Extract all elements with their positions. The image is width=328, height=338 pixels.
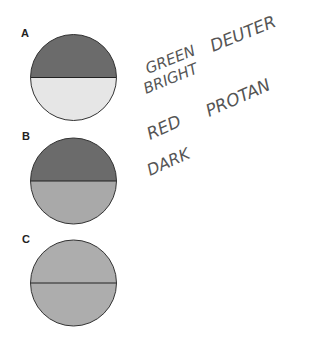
circle-b (30, 137, 118, 225)
circle-c (31, 240, 117, 326)
note-deuter: DEUTER (207, 11, 279, 55)
circle-b-bottom (30, 181, 118, 225)
note-red: RED (143, 111, 184, 144)
diagram: GREEN BRIGHT DEUTER RED DARK PROTAN (0, 0, 328, 338)
circle-a (30, 34, 118, 122)
circle-b-top (30, 137, 118, 181)
handwritten-annotations: GREEN BRIGHT DEUTER RED DARK PROTAN (141, 11, 279, 179)
note-protan: PROTAN (202, 74, 273, 120)
circle-a-top (30, 34, 118, 78)
note-dark: DARK (144, 143, 194, 179)
circle-a-bottom (30, 78, 118, 122)
